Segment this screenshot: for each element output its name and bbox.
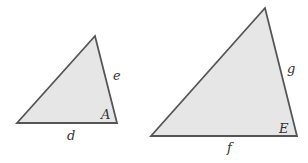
large-triangle-group: g E f [151, 8, 297, 155]
side-label-e: e [113, 68, 121, 83]
side-label-g: g [287, 61, 295, 76]
angle-label-A: A [100, 107, 110, 122]
side-label-f: f [226, 140, 234, 155]
angle-label-E: E [278, 121, 289, 136]
small-triangle-group: e A d [17, 36, 121, 143]
side-label-d: d [67, 128, 75, 143]
large-triangle [151, 8, 297, 136]
diagram-canvas: e A d g E f [0, 0, 308, 163]
